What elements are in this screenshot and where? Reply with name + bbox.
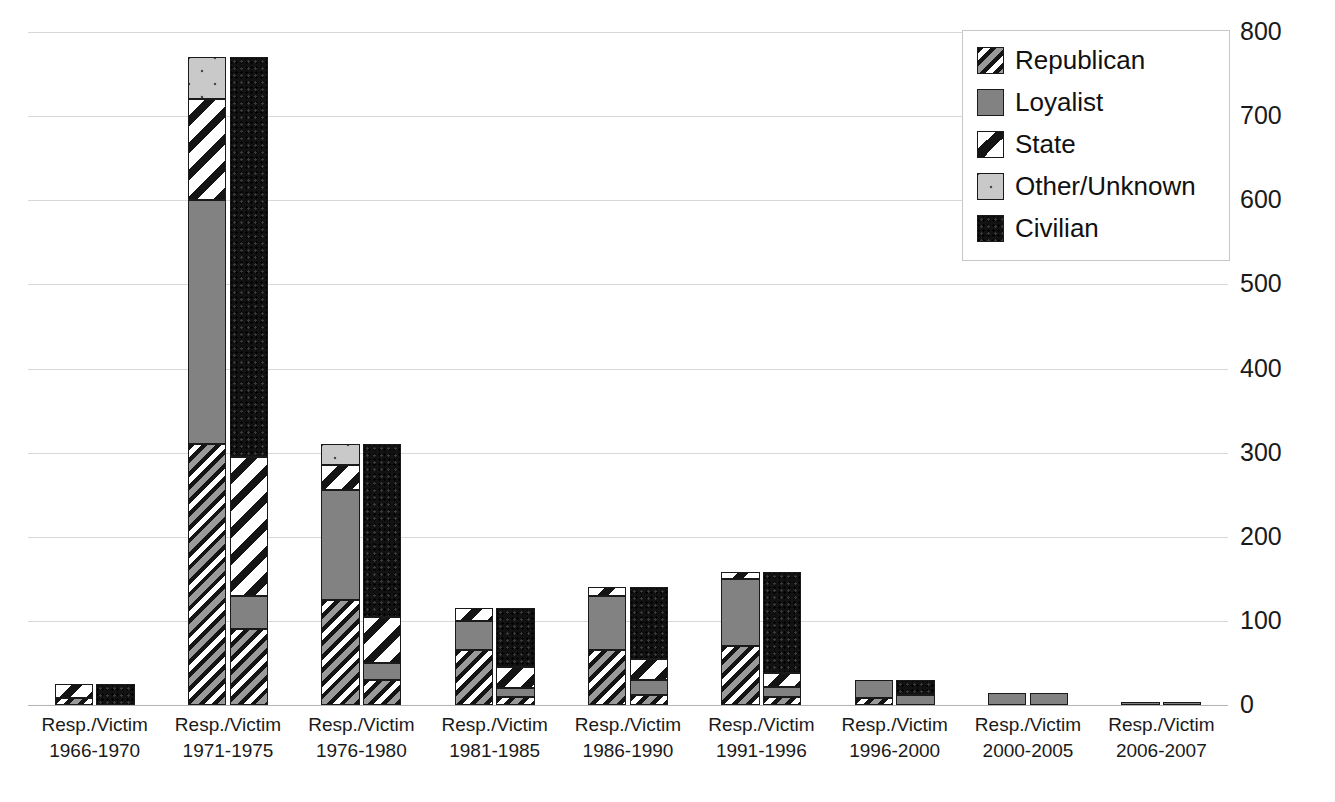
bar-segment-republican [188, 444, 226, 705]
x-axis-label-1991-1996: Resp./Victim1991-1996 [693, 712, 829, 764]
bar-segment-loyalist [321, 490, 359, 599]
bar-segment-loyalist [230, 596, 268, 630]
x-label-line1: Resp./Victim [160, 712, 296, 738]
legend-item-loyalist[interactable]: Loyalist [977, 81, 1229, 123]
gridline-0 [28, 705, 1228, 706]
x-label-line1: Resp./Victim [27, 712, 163, 738]
x-label-line2: 1981-1985 [427, 738, 563, 764]
bar-segment-loyalist [588, 596, 626, 651]
bar-group-1966-1970 [55, 32, 135, 705]
x-label-line1: Resp./Victim [293, 712, 429, 738]
bar-segment-republican [588, 650, 626, 705]
legend-item-republican[interactable]: Republican [977, 39, 1229, 81]
bar-segment-republican [230, 629, 268, 705]
bar-segment-other-unknown [321, 444, 359, 465]
x-label-line2: 2006-2007 [1093, 738, 1229, 764]
bar-group-1996-2000 [855, 32, 935, 705]
solid-black-swatch-icon [977, 215, 1004, 242]
x-label-line2: 1991-1996 [693, 738, 829, 764]
legend-label: Civilian [1015, 214, 1099, 242]
x-label-line1: Resp./Victim [1093, 712, 1229, 738]
bar-segment-state [588, 587, 626, 595]
bar-segment-republican [455, 650, 493, 705]
bar-segment-loyalist [363, 663, 401, 680]
light-gray-swatch-icon [977, 173, 1004, 200]
bar-segment-republican [763, 697, 801, 705]
y-tick-label-100: 100 [1240, 608, 1282, 633]
legend-item-other-unknown[interactable]: Other/Unknown [977, 165, 1229, 207]
x-axis-label-1971-1975: Resp./Victim1971-1975 [160, 712, 296, 764]
y-tick-label-800: 800 [1240, 19, 1282, 44]
bar-segment-loyalist [721, 579, 759, 646]
bar-segment-loyalist [1163, 702, 1201, 705]
x-label-line1: Resp./Victim [560, 712, 696, 738]
legend-label: Loyalist [1015, 88, 1103, 116]
bar-segment-loyalist [1030, 693, 1068, 705]
bar-segment-civilian [96, 684, 134, 705]
bar-segment-state [721, 572, 759, 579]
bar-segment-loyalist [188, 200, 226, 444]
figure-caption [4, 780, 764, 800]
x-axis-label-1981-1985: Resp./Victim1981-1985 [427, 712, 563, 764]
x-label-line1: Resp./Victim [960, 712, 1096, 738]
legend-item-civilian[interactable]: Civilian [977, 207, 1229, 249]
bar-segment-loyalist [896, 695, 934, 705]
bar-segment-state [188, 99, 226, 200]
bar-segment-state [496, 667, 534, 688]
bar-segment-state [55, 684, 93, 698]
bar-segment-state [321, 465, 359, 490]
x-axis-label-2000-2005: Resp./Victim2000-2005 [960, 712, 1096, 764]
legend-label: State [1015, 130, 1076, 158]
bar-segment-republican [321, 600, 359, 705]
bar-group-1981-1985 [455, 32, 535, 705]
legend-label: Republican [1015, 46, 1145, 74]
solid-gray-swatch-icon [977, 89, 1004, 116]
bar-segment-loyalist [855, 680, 893, 699]
x-label-line1: Resp./Victim [827, 712, 963, 738]
bar-group-1976-1980 [321, 32, 401, 705]
bar-segment-civilian [496, 608, 534, 667]
bar-segment-civilian [230, 57, 268, 457]
bar-segment-republican [721, 646, 759, 705]
bar-segment-loyalist [455, 621, 493, 650]
legend-label: Other/Unknown [1015, 172, 1196, 200]
x-label-line2: 1986-1990 [560, 738, 696, 764]
bar-segment-civilian [363, 444, 401, 616]
x-label-line2: 2000-2005 [960, 738, 1096, 764]
x-axis-label-1966-1970: Resp./Victim1966-1970 [27, 712, 163, 764]
x-label-line1: Resp./Victim [693, 712, 829, 738]
bar-segment-civilian [896, 680, 934, 695]
bar-segment-loyalist [763, 687, 801, 697]
y-tick-label-400: 400 [1240, 356, 1282, 381]
legend-item-state[interactable]: State [977, 123, 1229, 165]
x-label-line1: Resp./Victim [427, 712, 563, 738]
x-axis-label-1986-1990: Resp./Victim1986-1990 [560, 712, 696, 764]
x-label-line2: 1966-1970 [27, 738, 163, 764]
y-tick-label-500: 500 [1240, 271, 1282, 296]
bar-segment-loyalist [1121, 702, 1159, 705]
bar-chart: 0100200300400500600700800 Resp./Victim19… [0, 0, 1335, 802]
bar-segment-state [630, 659, 668, 680]
y-tick-label-300: 300 [1240, 440, 1282, 465]
bar-segment-loyalist [630, 680, 668, 695]
bar-segment-republican [496, 697, 534, 705]
bar-segment-state [230, 457, 268, 596]
y-axis: 0100200300400500600700800 [1240, 0, 1335, 802]
x-axis-label-1976-1980: Resp./Victim1976-1980 [293, 712, 429, 764]
x-axis-label-2006-2007: Resp./Victim2006-2007 [1093, 712, 1229, 764]
x-axis-label-1996-2000: Resp./Victim1996-2000 [827, 712, 963, 764]
x-label-line2: 1976-1980 [293, 738, 429, 764]
bar-group-1986-1990 [588, 32, 668, 705]
x-label-line2: 1971-1975 [160, 738, 296, 764]
bar-segment-state [455, 608, 493, 621]
y-tick-label-200: 200 [1240, 524, 1282, 549]
y-tick-label-0: 0 [1240, 692, 1254, 717]
hatched-swatch-icon [977, 47, 1004, 74]
legend: RepublicanLoyalistStateOther/UnknownCivi… [962, 30, 1230, 261]
bar-segment-other-unknown [188, 57, 226, 99]
bar-group-1971-1975 [188, 32, 268, 705]
x-label-line2: 1996-2000 [827, 738, 963, 764]
bar-segment-civilian [630, 587, 668, 659]
bar-segment-loyalist [496, 688, 534, 696]
bar-segment-republican [363, 680, 401, 705]
